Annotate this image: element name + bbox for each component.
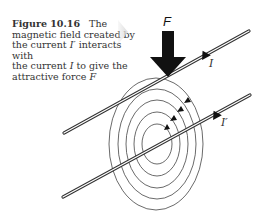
magnetic-field-diagram: F I I′: [0, 0, 265, 213]
current-label-upper: I: [208, 57, 214, 70]
field-lines: [109, 78, 203, 210]
lower-wire: [63, 95, 250, 197]
force-label: F: [163, 14, 172, 29]
current-label-lower: I′: [220, 116, 228, 129]
field-direction-arrows: [164, 97, 191, 130]
